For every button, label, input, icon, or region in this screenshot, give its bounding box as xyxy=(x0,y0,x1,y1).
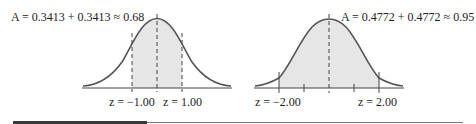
right-z-minus-label: z = −2.00 xyxy=(255,96,301,108)
left-z-minus-label: z = −1.00 xyxy=(109,96,155,108)
section-rule-light xyxy=(147,122,463,123)
left-area-label: A = 0.3413 + 0.3413 ≈ 0.68 xyxy=(11,11,144,23)
right-z-plus-label: z = 2.00 xyxy=(358,96,397,108)
left-normal-curve xyxy=(82,14,232,92)
right-area-label: A = 0.4772 + 0.4772 ≈ 0.95 xyxy=(341,11,474,23)
section-rule-dark xyxy=(13,121,147,124)
left-z-plus-label: z = 1.00 xyxy=(163,96,202,108)
right-normal-curve xyxy=(254,14,404,93)
